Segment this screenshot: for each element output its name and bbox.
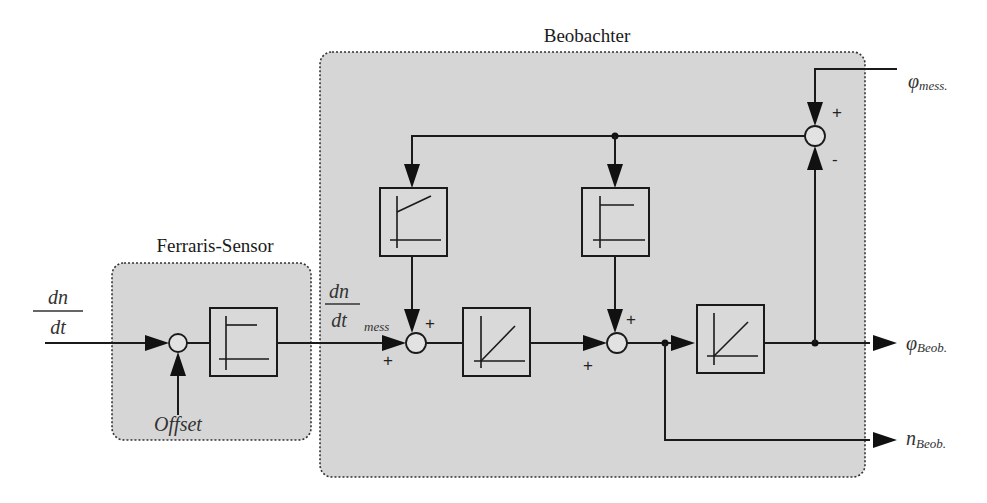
observer-group	[320, 52, 865, 477]
sum-junction-observer-1	[406, 333, 426, 353]
sign-plus: +	[832, 103, 842, 122]
sign-plus: +	[383, 351, 393, 370]
feedback-block-pi	[380, 188, 447, 256]
svg-text:mess: mess	[364, 319, 389, 334]
offset-label: Offset	[154, 413, 202, 436]
sign-plus: +	[626, 310, 636, 329]
sign-plus: +	[583, 356, 593, 375]
input-signal-label: dn dt	[33, 286, 83, 338]
svg-text:dt: dt	[331, 309, 347, 331]
svg-text:dn: dn	[48, 286, 68, 308]
arrow-icon	[873, 335, 897, 351]
sensor-title: Ferraris-Sensor	[156, 235, 274, 256]
phi-beob-label: φBeob.	[906, 332, 947, 355]
integrator-block-1	[463, 308, 530, 376]
arrow-icon	[873, 432, 897, 448]
block-diagram: Beobachter Ferraris-Sensor dn dt Offset …	[0, 0, 987, 503]
svg-text:dt: dt	[50, 316, 66, 338]
sum-junction-error	[805, 126, 825, 146]
n-beob-label: nBeob.	[906, 427, 946, 451]
phi-mess-label: φmess.	[908, 70, 948, 93]
sign-minus: -	[832, 150, 838, 169]
observer-title: Beobachter	[544, 25, 631, 46]
svg-text:dn: dn	[329, 280, 349, 302]
sum-junction-sensor	[169, 334, 187, 352]
sensor-transfer-block	[210, 308, 277, 376]
feedback-block-p	[582, 188, 649, 256]
sign-plus: +	[425, 314, 435, 333]
sum-junction-observer-2	[607, 333, 627, 353]
integrator-block-2	[697, 305, 764, 373]
